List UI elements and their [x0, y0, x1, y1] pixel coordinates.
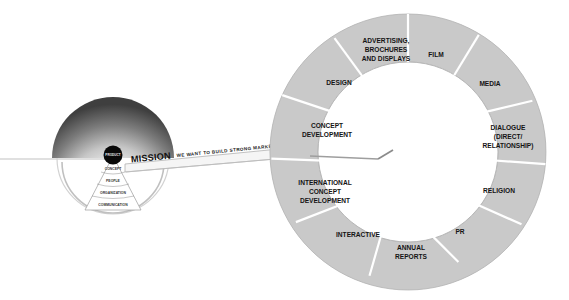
wheel-segment-advertising[interactable]: ADVERTISING, BROCHURES AND DISPLAYS — [362, 37, 411, 62]
wheel-center-hole — [318, 62, 498, 242]
wheel-label-concept-line-0: CONCEPT — [311, 122, 343, 129]
wheel-label-dialogue-line-0: DIALOGUE — [491, 124, 526, 131]
wheel-segment-film[interactable]: FILM — [428, 51, 444, 58]
wheel-segment-interactive[interactable]: INTERACTIVE — [336, 231, 381, 238]
diagram-canvas: CONCEPT PEOPLE ORGANIZATION COMMUNICATIO… — [0, 0, 569, 300]
wheel-label-intl-line-2: DEVELOPMENT — [300, 197, 350, 204]
wheel-label-concept-line-1: DEVELOPMENT — [302, 131, 352, 138]
wheel-label-dialogue-line-1: (DIRECT/ — [494, 133, 523, 141]
wheel-label-interactive-line-0: INTERACTIVE — [336, 231, 381, 238]
wheel-label-adv-line-0: ADVERTISING, — [363, 37, 410, 45]
wheel-label-annual-line-0: ANNUAL — [397, 244, 425, 251]
wheel-segment-pr[interactable]: PR — [455, 228, 464, 235]
communication-wheel: FILM MEDIA DIALOGUE (DIRECT/ RELATIONSHI… — [270, 14, 546, 290]
wheel-label-intl-line-1: CONCEPT — [309, 188, 341, 195]
wheel-label-media-line-0: MEDIA — [479, 80, 500, 87]
wheel-label-pr-line-0: PR — [455, 228, 464, 235]
wheel-segment-design[interactable]: DESIGN — [326, 79, 352, 86]
wheel-label-annual-line-1: REPORTS — [395, 253, 427, 260]
wheel-segment-religion[interactable]: RELIGION — [483, 187, 515, 194]
wheel-label-design-line-0: DESIGN — [326, 79, 352, 86]
product-node: PRODUCT — [104, 146, 123, 165]
wheel-label-dialogue-line-2: RELATIONSHIP) — [483, 142, 534, 150]
product-node-label: PRODUCT — [105, 153, 120, 157]
wheel-segment-media[interactable]: MEDIA — [479, 80, 500, 87]
wheel-label-adv-line-2: AND DISPLAYS — [362, 55, 411, 62]
wheel-label-adv-line-1: BROCHURES — [365, 46, 408, 53]
wheel-label-intl-line-0: INTERNATIONAL — [298, 179, 351, 186]
pyramid-layer-label-organization: ORGANIZATION — [100, 191, 126, 195]
pyramid-layer-label-concept: CONCEPT — [105, 167, 123, 171]
pyramid-layer-label-communication: COMMUNICATION — [98, 203, 128, 207]
wheel-label-film-line-0: FILM — [428, 51, 444, 58]
wheel-label-religion-line-0: RELIGION — [483, 187, 515, 194]
pyramid-layer-label-people: PEOPLE — [106, 179, 120, 183]
mission-communication-diagram: CONCEPT PEOPLE ORGANIZATION COMMUNICATIO… — [0, 0, 569, 300]
